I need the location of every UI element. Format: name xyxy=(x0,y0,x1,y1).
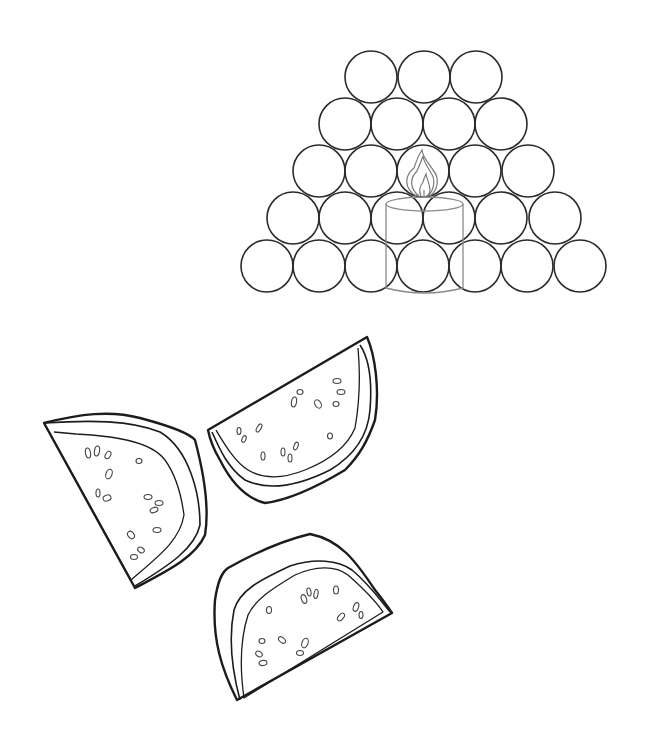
circle-r1-c3 xyxy=(450,51,502,103)
circle-r5-c7 xyxy=(554,240,606,292)
circle-r4-c1 xyxy=(267,192,319,244)
circle-r5-c3 xyxy=(345,240,397,292)
watermelon-slice-top-right xyxy=(208,337,377,503)
circle-r3-c1 xyxy=(293,145,345,197)
candle-flame-icon xyxy=(407,150,438,196)
circle-r2-c4 xyxy=(475,98,527,150)
circle-r4-c3 xyxy=(371,192,423,244)
circle-r3-c5 xyxy=(502,145,554,197)
circle-r5-c2 xyxy=(293,240,345,292)
circle-r4-c5 xyxy=(475,192,527,244)
circle-r5-c4 xyxy=(397,240,449,292)
circle-r1-c2 xyxy=(398,51,450,103)
circle-r1-c1 xyxy=(345,51,397,103)
circle-r2-c3 xyxy=(423,98,475,150)
circle-r5-c5 xyxy=(449,240,501,292)
circle-r2-c1 xyxy=(319,98,371,150)
circle-r5-c6 xyxy=(501,240,553,292)
watermelon-slice-bottom xyxy=(214,534,392,700)
circle-r2-c2 xyxy=(371,98,423,150)
circle-r4-c2 xyxy=(319,192,371,244)
illustration-canvas xyxy=(0,0,646,742)
circle-r3-c2 xyxy=(345,145,397,197)
circle-pyramid xyxy=(241,51,606,292)
watermelon-slice-left xyxy=(44,414,207,588)
circle-r4-c4 xyxy=(423,192,475,244)
circle-r3-c4 xyxy=(449,145,501,197)
circle-r4-c6 xyxy=(529,192,581,244)
circle-r5-c1 xyxy=(241,240,293,292)
